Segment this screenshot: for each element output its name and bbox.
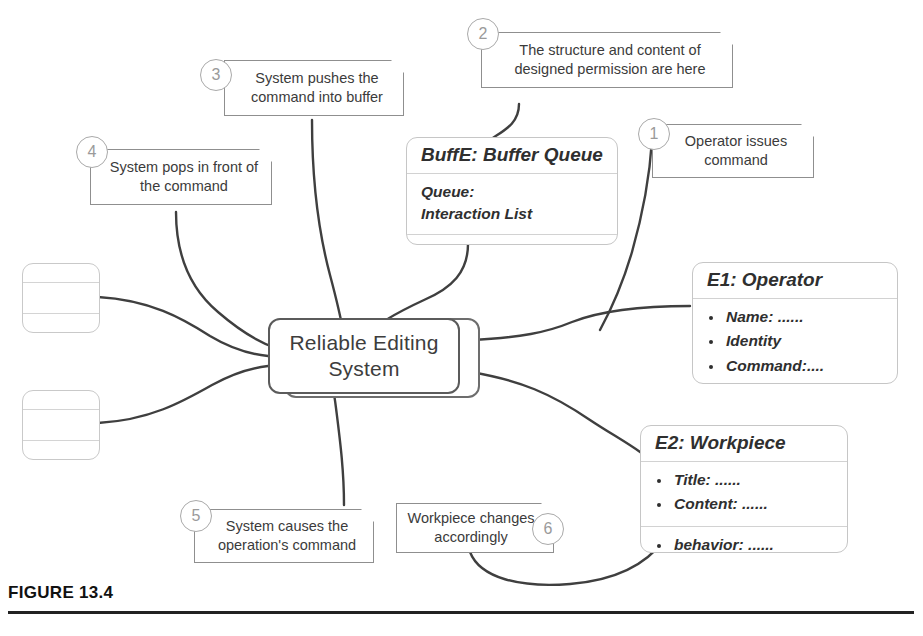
empty-entity-lower-body-row — [23, 410, 99, 441]
wire-callout-3 — [312, 120, 344, 336]
wire-operator — [470, 306, 690, 340]
figure-caption-rule — [8, 611, 914, 614]
callout-2: The structure and content of designed pe… — [481, 32, 733, 88]
callout-5-line-2: operation's command — [218, 537, 356, 553]
entity-operator-attr-1: Name: ...... — [724, 306, 883, 328]
center-node-reliable-editing-system: Reliable Editing System — [268, 318, 460, 394]
wire-callout-4 — [176, 212, 276, 348]
figure-caption: FIGURE 13.4 — [8, 583, 113, 603]
entity-operator-attributes: Name: ...... Identity Command:.... — [693, 299, 897, 384]
callout-3-badge: 3 — [200, 59, 232, 91]
entity-buffer-queue-attr-1: Queue: — [421, 181, 603, 203]
callout-5-number: 5 — [192, 507, 201, 525]
callout-5-badge: 5 — [180, 500, 212, 532]
entity-buffer-queue-attr-2: Interaction List — [421, 203, 603, 225]
callout-4: System pops in front of the command — [90, 149, 272, 205]
callout-5: System causes the operation's command — [194, 509, 374, 563]
entity-workpiece-attr-2: Content: ...... — [672, 493, 833, 515]
callout-6-text: Workpiece changes accordingly — [396, 503, 554, 553]
empty-entity-lower-footer-row — [23, 441, 99, 459]
callout-4-number: 4 — [88, 143, 97, 161]
entity-buffer-queue-title: BuffE: Buffer Queue — [407, 138, 617, 174]
entity-workpiece: E2: Workpiece Title: ...... Content: ...… — [640, 425, 848, 553]
wire-workpiece — [470, 372, 662, 472]
center-node-label: Reliable Editing System — [270, 330, 458, 383]
callout-6-line-1: Workpiece changes — [407, 510, 534, 526]
callout-1-line-2: command — [704, 152, 768, 168]
callout-3-line-2: command into buffer — [251, 89, 383, 105]
callout-3-text: System pushes the command into buffer — [224, 60, 404, 116]
figure-canvas: BuffE: Buffer Queue Queue: Interaction L… — [0, 0, 923, 636]
callout-4-text: System pops in front of the command — [90, 149, 272, 205]
entity-buffer-queue-attributes: Queue: Interaction List — [407, 174, 617, 234]
callout-2-badge: 2 — [467, 18, 499, 50]
entity-workpiece-attributes: Title: ...... Content: ...... — [641, 462, 847, 526]
entity-operator: E1: Operator Name: ...... Identity Comma… — [692, 262, 898, 384]
wire-empty-upper — [98, 297, 268, 356]
empty-entity-lower — [22, 390, 100, 460]
entity-workpiece-title: E2: Workpiece — [641, 426, 847, 462]
entity-workpiece-operations: behavior: ...... — [641, 526, 847, 553]
entity-operator-attr-3: Command:.... — [724, 355, 883, 377]
empty-entity-lower-title-row — [23, 391, 99, 410]
callout-6-line-2: accordingly — [434, 529, 507, 545]
callout-3-line-1: System pushes the — [255, 70, 378, 86]
callout-1-badge: 1 — [638, 118, 670, 150]
callout-5-text: System causes the operation's command — [194, 509, 374, 563]
entity-buffer-queue-operations — [407, 234, 617, 245]
callout-1: Operator issues command — [652, 124, 814, 178]
callout-1-line-1: Operator issues — [685, 133, 787, 149]
callout-2-line-2: designed permission are here — [514, 61, 705, 77]
entity-buffer-queue: BuffE: Buffer Queue Queue: Interaction L… — [406, 137, 618, 245]
callout-2-text: The structure and content of designed pe… — [481, 32, 733, 88]
callout-3: System pushes the command into buffer — [224, 60, 404, 116]
entity-workpiece-attr-1: Title: ...... — [672, 469, 833, 491]
entity-operator-attr-2: Identity — [724, 330, 883, 352]
callout-4-line-2: the command — [140, 178, 228, 194]
callout-5-line-1: System causes the — [226, 518, 349, 534]
callout-6-number: 6 — [544, 520, 553, 538]
callout-4-line-1: System pops in front of — [110, 159, 258, 175]
callout-6: Workpiece changes accordingly — [396, 503, 554, 553]
entity-workpiece-op-1: behavior: ...... — [672, 534, 833, 553]
empty-entity-upper-title-row — [23, 264, 99, 283]
wire-empty-lower — [98, 366, 268, 423]
callout-2-line-1: The structure and content of — [519, 42, 700, 58]
empty-entity-upper — [22, 263, 100, 333]
callout-6-badge: 6 — [532, 513, 564, 545]
empty-entity-upper-body-row — [23, 283, 99, 314]
callout-1-number: 1 — [650, 125, 659, 143]
callout-4-badge: 4 — [76, 136, 108, 168]
empty-entity-upper-footer-row — [23, 314, 99, 332]
callout-2-number: 2 — [479, 25, 488, 43]
callout-1-text: Operator issues command — [652, 124, 814, 178]
entity-operator-title: E1: Operator — [693, 263, 897, 299]
callout-3-number: 3 — [212, 66, 221, 84]
